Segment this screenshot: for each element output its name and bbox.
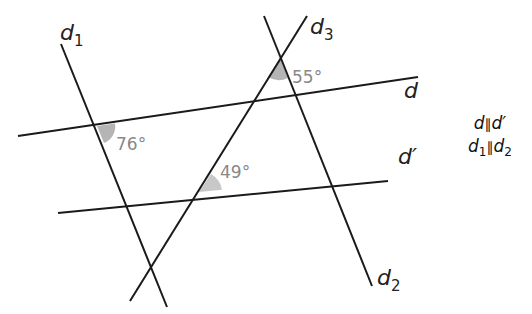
condition-d1-parallel-d2: d1∥d2	[450, 135, 530, 163]
angle-76-label: 76°	[116, 134, 146, 154]
angle-55-label: 55°	[292, 67, 322, 87]
label-d2: d2	[377, 265, 401, 295]
label-d: d	[404, 78, 419, 103]
condition-d-parallel-d-prime: d∥d′	[450, 112, 530, 135]
parallel-symbol: ∥	[485, 116, 492, 132]
cond2-left: d	[468, 136, 479, 156]
cond2-right-sub: 2	[504, 145, 512, 159]
geometry-diagram: d1 d3 d d′ d2 76° 55° 49° d∥d′ d1∥d2	[0, 0, 532, 314]
label-d3: d3	[310, 14, 334, 44]
cond1-right: d′	[492, 113, 507, 133]
line-d3	[130, 16, 307, 301]
cond1-left: d	[474, 113, 485, 133]
parallel-symbol: ∥	[487, 139, 494, 155]
cond2-right: d	[494, 136, 505, 156]
parallel-conditions: d∥d′ d1∥d2	[450, 112, 530, 163]
label-d-prime: d′	[398, 144, 417, 169]
line-d-prime	[58, 181, 388, 213]
cond2-left-sub: 1	[479, 145, 487, 159]
line-d2	[264, 16, 372, 286]
angle-49-label: 49°	[220, 162, 250, 182]
label-d1: d1	[60, 20, 84, 50]
